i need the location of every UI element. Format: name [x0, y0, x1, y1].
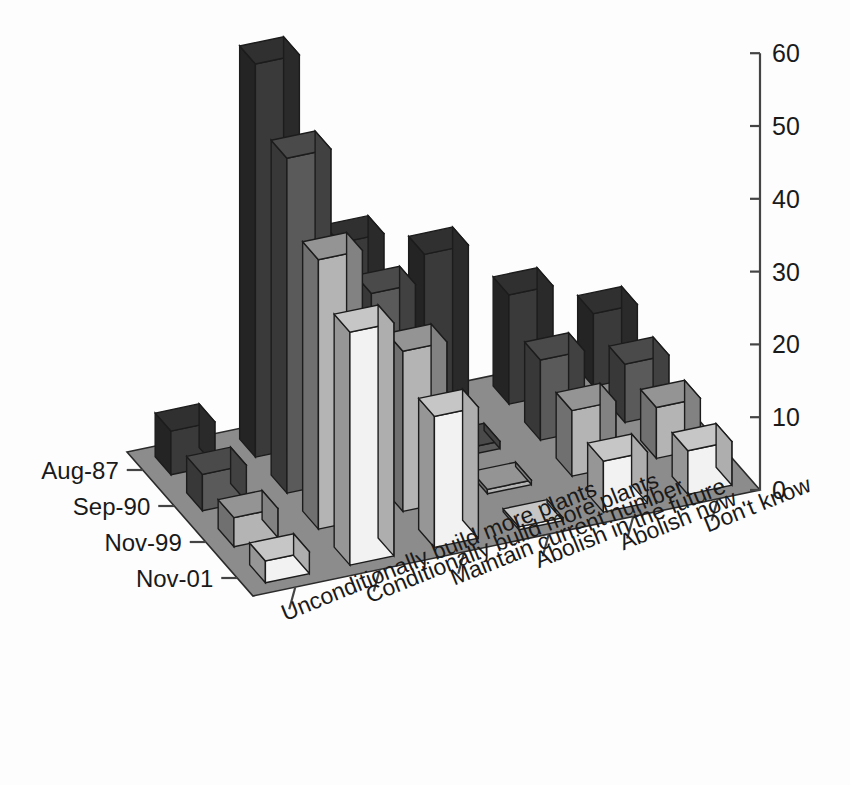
- bar-side-face: [334, 314, 350, 565]
- bar-1-Nov-01[interactable]: [250, 534, 310, 583]
- series-axis-label: Sep-90: [73, 493, 150, 520]
- series-axis-label: Nov-01: [136, 565, 213, 592]
- value-tick-label: 50: [772, 112, 800, 140]
- value-axis-ticks: 0102030405060: [750, 39, 800, 504]
- bar-2-Nov-01[interactable]: [334, 305, 394, 565]
- bar-side-face: [493, 277, 509, 404]
- series-axis-label: Nov-99: [104, 529, 181, 556]
- bar-side-face: [419, 398, 435, 547]
- value-tick-label: 10: [772, 403, 800, 431]
- chart-container: 0102030405060 Aug-87Sep-90Nov-99Nov-01 U…: [0, 0, 850, 785]
- bar-right-face: [378, 305, 394, 556]
- value-tick-label: 20: [772, 330, 800, 358]
- bar-right-face: [453, 227, 469, 412]
- bar-chart-3d: 0102030405060 Aug-87Sep-90Nov-99Nov-01 U…: [0, 0, 850, 785]
- value-tick-label: 60: [772, 39, 800, 67]
- bar-right-face: [463, 389, 479, 538]
- value-axis: 0102030405060: [750, 39, 800, 504]
- bar-side-face: [271, 140, 287, 493]
- series-axis-label: Aug-87: [41, 457, 118, 484]
- value-tick-label: 40: [772, 185, 800, 213]
- bar-side-face: [240, 46, 256, 457]
- bar-side-face: [303, 242, 319, 529]
- value-tick-label: 30: [772, 258, 800, 286]
